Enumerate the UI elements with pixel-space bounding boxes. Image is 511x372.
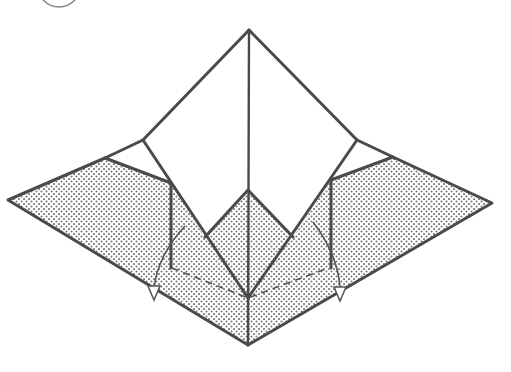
step-number-circle [37,0,81,7]
left-arrowhead-icon [148,286,160,300]
origami-diagram [0,0,511,372]
